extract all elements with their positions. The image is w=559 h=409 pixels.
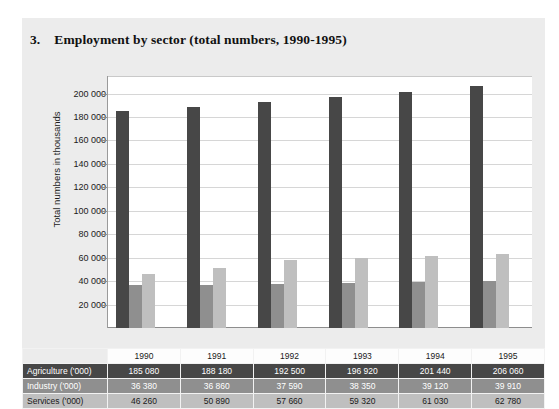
bar-1992-series-1 bbox=[271, 284, 284, 328]
bar-1992-series-2 bbox=[284, 260, 297, 328]
table-cell: 59 320 bbox=[326, 394, 399, 409]
table-header-year: 1995 bbox=[472, 349, 545, 364]
y-axis-tick bbox=[102, 211, 107, 212]
bar-1990-series-0 bbox=[116, 111, 129, 328]
table-header-year: 1993 bbox=[326, 349, 399, 364]
y-axis-tick-label: 100 000 bbox=[48, 206, 106, 216]
table-cell: 39 910 bbox=[472, 379, 545, 394]
y-axis-tick bbox=[102, 164, 107, 165]
page-title: Employment by sector (total numbers, 199… bbox=[54, 32, 346, 48]
figure-card: 3. Employment by sector (total numbers, … bbox=[22, 18, 545, 392]
bar-1995-series-2 bbox=[496, 254, 509, 328]
table-cell: 50 890 bbox=[180, 394, 253, 409]
table-cell: 188 180 bbox=[180, 364, 253, 379]
bar-group-1995 bbox=[462, 76, 533, 328]
table-cell: 36 860 bbox=[180, 379, 253, 394]
bar-1991-series-1 bbox=[200, 285, 213, 328]
y-axis-tick bbox=[102, 117, 107, 118]
table-cell: 39 120 bbox=[399, 379, 472, 394]
table-header-year: 1992 bbox=[253, 349, 326, 364]
y-axis-tick-labels: 20 00040 00060 00080 000100 000120 00014… bbox=[48, 76, 106, 328]
bar-group-1990 bbox=[108, 76, 179, 328]
y-axis-tick bbox=[102, 234, 107, 235]
y-axis-tick bbox=[102, 281, 107, 282]
table-header-year: 1990 bbox=[108, 349, 181, 364]
table-header-year: 1991 bbox=[180, 349, 253, 364]
y-axis-tick-label: 180 000 bbox=[48, 112, 106, 122]
plot-area bbox=[107, 76, 532, 328]
y-axis-tick-label: 200 000 bbox=[48, 89, 106, 99]
bar-group-1991 bbox=[179, 76, 250, 328]
bar-group-1993 bbox=[321, 76, 392, 328]
table-cell: 185 080 bbox=[108, 364, 181, 379]
bar-1994-series-0 bbox=[399, 92, 412, 328]
figure-title: 3. Employment by sector (total numbers, … bbox=[30, 32, 530, 48]
bar-group-1992 bbox=[250, 76, 321, 328]
table-cell: 196 920 bbox=[326, 364, 399, 379]
table-cell: 46 260 bbox=[108, 394, 181, 409]
bar-1995-series-1 bbox=[483, 281, 496, 328]
table-cell: 201 440 bbox=[399, 364, 472, 379]
y-axis-tick-label: 60 000 bbox=[48, 253, 106, 263]
table-row: Services ('000)46 26050 89057 66059 3206… bbox=[23, 394, 545, 409]
table-row: Industry ('000)36 38036 86037 59038 3503… bbox=[23, 379, 545, 394]
bar-1991-series-2 bbox=[213, 268, 226, 328]
bar-group-1994 bbox=[391, 76, 462, 328]
table-row-label: Industry ('000) bbox=[23, 379, 108, 394]
y-axis-tick-label: 160 000 bbox=[48, 135, 106, 145]
table-cell: 57 660 bbox=[253, 394, 326, 409]
y-axis-tick-label: 20 000 bbox=[48, 300, 106, 310]
table-row-label: Services ('000) bbox=[23, 394, 108, 409]
y-axis-tick bbox=[102, 187, 107, 188]
table-cell: 206 060 bbox=[472, 364, 545, 379]
bar-1994-series-2 bbox=[425, 256, 438, 328]
table-cell: 61 030 bbox=[399, 394, 472, 409]
y-axis-tick-label: 120 000 bbox=[48, 182, 106, 192]
y-axis-tick bbox=[102, 305, 107, 306]
bar-1993-series-1 bbox=[342, 283, 355, 328]
bar-1993-series-2 bbox=[355, 258, 368, 328]
y-axis-tick-label: 140 000 bbox=[48, 159, 106, 169]
chart-area: Total numbers in thousands 20 00040 0006… bbox=[22, 60, 545, 392]
bar-1990-series-2 bbox=[142, 274, 155, 328]
table-header-year: 1994 bbox=[399, 349, 472, 364]
bar-1995-series-0 bbox=[470, 86, 483, 328]
table-corner-cell bbox=[23, 349, 108, 364]
table-cell: 62 780 bbox=[472, 394, 545, 409]
y-axis-tick-label: 40 000 bbox=[48, 276, 106, 286]
bar-1991-series-0 bbox=[187, 107, 200, 328]
bar-1992-series-0 bbox=[258, 102, 271, 328]
table-cell: 37 590 bbox=[253, 379, 326, 394]
y-axis-tick bbox=[102, 258, 107, 259]
bar-1990-series-1 bbox=[129, 285, 142, 328]
y-axis-tick-label: 80 000 bbox=[48, 229, 106, 239]
figure-number: 3. bbox=[30, 32, 40, 48]
table-row: Agriculture ('000)185 080188 180192 5001… bbox=[23, 364, 545, 379]
bar-1993-series-0 bbox=[329, 97, 342, 328]
bar-1994-series-1 bbox=[412, 282, 425, 328]
data-table: 199019911992199319941995Agriculture ('00… bbox=[22, 348, 545, 409]
table-row-years: 199019911992199319941995 bbox=[23, 349, 545, 364]
table-cell: 192 500 bbox=[253, 364, 326, 379]
y-axis-tick bbox=[102, 94, 107, 95]
table-cell: 38 350 bbox=[326, 379, 399, 394]
table-row-label: Agriculture ('000) bbox=[23, 364, 108, 379]
y-axis-tick bbox=[102, 140, 107, 141]
table-cell: 36 380 bbox=[108, 379, 181, 394]
